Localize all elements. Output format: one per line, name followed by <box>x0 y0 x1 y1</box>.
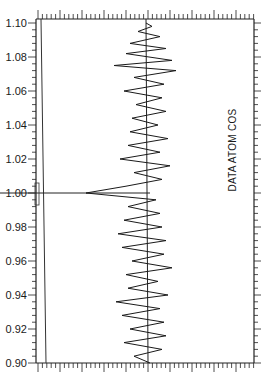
y-tick-label: 0.92 <box>6 323 27 335</box>
y-tick-label: 1.04 <box>6 119 27 131</box>
y-tick-label: 1.02 <box>6 153 27 165</box>
right-axis-ticks <box>254 23 261 363</box>
y-tick-label: 0.94 <box>6 289 27 301</box>
y-tick-label: 0.90 <box>6 357 27 369</box>
y-tick-label: 1.08 <box>6 51 27 63</box>
y-tick-label: 0.98 <box>6 221 27 233</box>
top-axis-ticks <box>38 10 254 19</box>
chart: 1.101.081.061.041.021.000.980.960.940.92… <box>0 0 265 377</box>
y-tick-label: 0.96 <box>6 255 27 267</box>
chart-title: DATA ATOM COS <box>227 108 238 191</box>
y-tick-label: 1.06 <box>6 85 27 97</box>
bottom-axis-ticks <box>38 363 254 372</box>
y-tick-label: 1.10 <box>6 17 27 29</box>
